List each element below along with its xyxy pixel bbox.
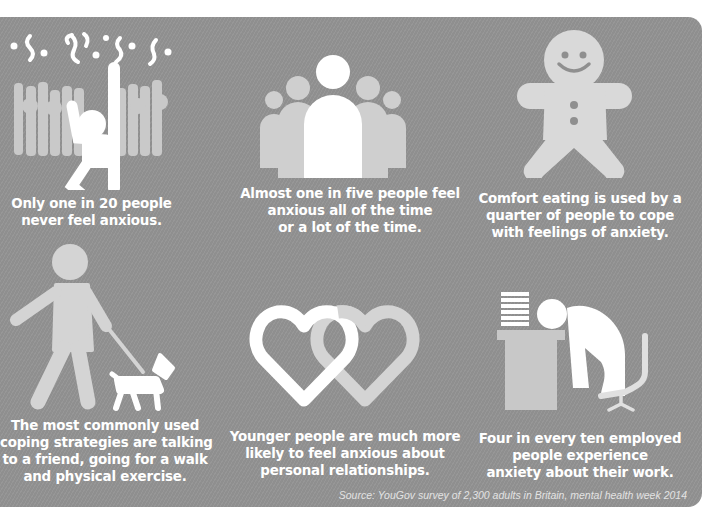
gingerbread-man-icon — [515, 28, 635, 178]
fact-caption: Only one in 20 people never feel anxious… — [0, 195, 183, 229]
stressed-worker-at-desk-icon — [497, 292, 657, 412]
source-note: Source: YouGov survey of 2,300 adults in… — [339, 489, 687, 501]
celebrating-person-icon — [8, 28, 178, 190]
fact-caption: The most commonly used coping strategies… — [0, 417, 210, 485]
fact-caption: Four in every ten employed people experi… — [465, 430, 695, 481]
linked-hearts-icon — [238, 300, 428, 408]
person-walking-dog-icon — [8, 240, 178, 412]
fact-caption: Younger people are much more likely to f… — [220, 428, 470, 479]
fact-caption: Almost one in five people feel anxious a… — [220, 185, 480, 236]
fact-caption: Comfort eating is used by a quarter of p… — [465, 190, 695, 241]
group-of-people-icon — [258, 50, 408, 178]
